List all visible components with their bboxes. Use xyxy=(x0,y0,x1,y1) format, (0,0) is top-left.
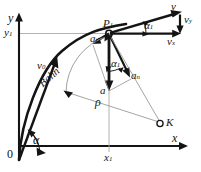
p1-label: P1 xyxy=(103,18,113,29)
at-label-sub: t xyxy=(96,36,98,43)
y-axis-arrowhead xyxy=(15,13,23,22)
vx-label: vx xyxy=(167,36,175,47)
v0-label-sub: 0 xyxy=(42,63,45,70)
figure-canvas: y y1 x 0 x1 Bahn P1 K v0 v vy vx at a an… xyxy=(0,0,201,172)
an-label-sub: n xyxy=(137,73,140,80)
alpha1-top-sub: 1 xyxy=(150,23,153,30)
p1-label-sub: 1 xyxy=(110,21,113,28)
vy-label-sub: y xyxy=(189,17,192,24)
vy-label: vy xyxy=(184,14,192,25)
v-vector-line xyxy=(110,14,176,33)
alpha-angle-label: α xyxy=(33,134,39,146)
x-axis-label: x xyxy=(172,132,177,144)
y1-axis-label: y1 xyxy=(4,27,12,38)
rho-label: ρ xyxy=(95,96,101,108)
vx-label-sub: x xyxy=(172,39,175,46)
x1-axis-label: x1 xyxy=(104,152,112,163)
an-label: an xyxy=(131,70,140,81)
origin-label: 0 xyxy=(7,148,13,160)
radius-of-curvature xyxy=(64,34,164,127)
x-axis-arrowhead xyxy=(179,142,188,150)
y1-axis-label-sub: 1 xyxy=(9,30,12,37)
at-label: at xyxy=(90,33,97,44)
alpha1-mid-sub: 1 xyxy=(117,61,120,68)
v0-label: v0 xyxy=(37,60,45,71)
alpha1-mid-angle-label: α1 xyxy=(111,58,120,69)
y-axis-label: y xyxy=(8,12,13,24)
alpha1-top-angle-label: α1 xyxy=(144,20,153,31)
k-label: K xyxy=(166,117,173,128)
p1-label-base: P xyxy=(103,17,110,29)
v-label: v xyxy=(171,1,176,12)
x1-axis-label-sub: 1 xyxy=(109,155,112,162)
k-point-marker xyxy=(157,120,163,126)
